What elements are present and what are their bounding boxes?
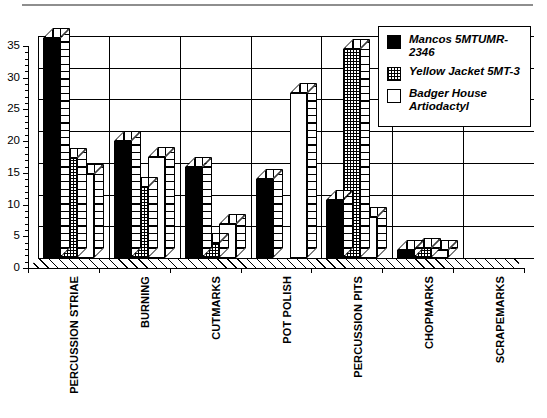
x-axis-tick bbox=[453, 268, 454, 273]
chart-legend: Mancos 5MTUMR-2346 Yellow Jacket 5MT-3 B… bbox=[378, 26, 531, 127]
y-axis-tick-label: 15 bbox=[0, 167, 20, 179]
bar-side-face bbox=[77, 148, 87, 258]
y-axis-line-front bbox=[28, 46, 29, 269]
bar-badger-house bbox=[290, 93, 307, 258]
gridline bbox=[38, 226, 534, 227]
gridline bbox=[38, 131, 534, 132]
bar-mancos bbox=[256, 179, 273, 258]
legend-swatch-solid-black-icon bbox=[387, 35, 401, 49]
bar-front-face bbox=[256, 179, 273, 258]
bar-side-face bbox=[307, 83, 317, 258]
legend-label-mancos: Mancos 5MTUMR-2346 bbox=[409, 33, 525, 59]
x-axis-line-front bbox=[28, 268, 524, 269]
bar-mancos bbox=[114, 141, 131, 258]
legend-swatch-checkered-icon bbox=[387, 67, 401, 81]
category-separator-line bbox=[180, 36, 181, 258]
bar-chart-figure: 05101520253035 Mancos 5MTUMR-2346 Yellow… bbox=[0, 0, 547, 418]
bar-side-face bbox=[343, 190, 353, 258]
legend-entry-mancos: Mancos 5MTUMR-2346 bbox=[387, 33, 525, 59]
bar-side-face bbox=[360, 39, 370, 258]
bar-front-face bbox=[326, 200, 343, 258]
category-separator-line bbox=[251, 36, 252, 258]
y-axis-tick-label: 20 bbox=[0, 135, 20, 147]
bar-side-face bbox=[165, 147, 175, 258]
bar-front-face bbox=[397, 250, 414, 258]
x-axis-label-scrapemarks: SCRAPEMARKS bbox=[494, 276, 506, 363]
x-axis-label-pot-polish: POT POLISH bbox=[281, 276, 293, 344]
x-axis-tick bbox=[311, 268, 312, 273]
x-axis-label-percussion-pits: PERCUSSION PITS bbox=[352, 276, 364, 378]
x-axis-tick bbox=[382, 268, 383, 273]
y-axis-line bbox=[38, 36, 39, 259]
gridline bbox=[38, 195, 534, 196]
bar-front-face bbox=[185, 167, 202, 258]
x-axis-tick bbox=[28, 268, 29, 273]
y-axis-tick-label: 0 bbox=[0, 262, 20, 274]
x-axis-tick bbox=[170, 268, 171, 273]
bar-yellow-jacket bbox=[273, 258, 290, 259]
bar-mancos bbox=[185, 167, 202, 258]
bar-badger-house bbox=[502, 258, 519, 259]
y-axis-tick-label: 25 bbox=[0, 103, 20, 115]
x-axis-label-cutmarks: CUTMARKS bbox=[210, 276, 222, 340]
bar-mancos bbox=[397, 250, 414, 258]
y-axis-tick-label: 10 bbox=[0, 199, 20, 211]
x-axis-tick bbox=[241, 268, 242, 273]
bar-side-face bbox=[131, 131, 141, 258]
x-axis-label-percussion-striae: PERCUSSION STRIAE bbox=[68, 276, 80, 394]
x-axis-label-burning: BURNING bbox=[139, 276, 151, 328]
y-axis-tick-label: 5 bbox=[0, 230, 20, 242]
bar-mancos bbox=[326, 200, 343, 258]
legend-swatch-white-icon bbox=[387, 89, 401, 103]
category-separator-line bbox=[109, 36, 110, 258]
bar-side-face bbox=[202, 157, 212, 258]
legend-label-yellow-jacket: Yellow Jacket 5MT-3 bbox=[409, 65, 520, 78]
x-axis-tick bbox=[524, 268, 525, 273]
bar-mancos bbox=[468, 258, 485, 259]
x-axis-tick bbox=[99, 268, 100, 273]
category-separator-line bbox=[321, 36, 322, 258]
y-axis-tick-label: 35 bbox=[0, 40, 20, 52]
bar-yellow-jacket bbox=[485, 258, 502, 259]
bar-mancos bbox=[43, 38, 60, 258]
bar-front-face bbox=[43, 38, 60, 258]
bar-side-face bbox=[148, 177, 158, 258]
bar-side-face bbox=[94, 164, 104, 258]
bar-front-face bbox=[290, 93, 307, 258]
y-axis-tick-label: 30 bbox=[0, 72, 20, 84]
legend-label-badger-house: Badger House Artiodactyl bbox=[409, 87, 525, 113]
bar-side-face bbox=[60, 28, 70, 258]
bar-side-face bbox=[273, 169, 283, 258]
bar-front-face bbox=[114, 141, 131, 258]
legend-entry-yellow-jacket: Yellow Jacket 5MT-3 bbox=[387, 65, 525, 81]
gridline bbox=[38, 163, 534, 164]
legend-entry-badger-house: Badger House Artiodactyl bbox=[387, 87, 525, 113]
x-axis-label-chopmarks: CHOPMARKS bbox=[423, 276, 435, 349]
